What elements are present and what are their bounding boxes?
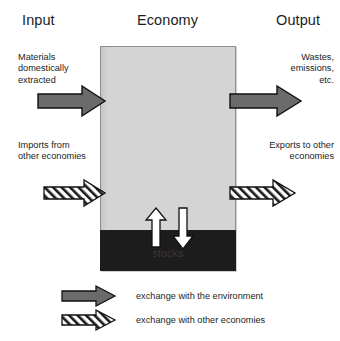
legend-label-environment: exchange with the environment xyxy=(136,291,263,301)
legend-icon-solid-arrow xyxy=(62,286,116,306)
annotation-materials-extracted: Materials domestically extracted xyxy=(18,52,98,86)
legend-label-other-economies: exchange with other economies xyxy=(136,315,265,325)
arrow-materials-in xyxy=(38,86,106,116)
legend-icon-hatched-arrow xyxy=(62,310,116,330)
arrow-stocks-down xyxy=(172,208,194,250)
column-title-economy: Economy xyxy=(137,12,198,28)
annotation-imports: Imports from other economies xyxy=(18,140,106,163)
material-flow-diagram: Input Economy Output stocks Materials do… xyxy=(0,0,340,341)
stocks-label: stocks xyxy=(100,247,236,259)
arrow-exports-out xyxy=(230,180,296,206)
column-title-output: Output xyxy=(276,12,320,28)
arrow-imports-in xyxy=(44,180,106,206)
arrow-wastes-out xyxy=(230,86,302,116)
arrow-stocks-up xyxy=(145,208,167,248)
column-title-input: Input xyxy=(22,12,55,28)
annotation-wastes-emissions: Wastes, emissions, etc. xyxy=(224,52,334,86)
annotation-exports: Exports to other economies xyxy=(234,140,334,163)
